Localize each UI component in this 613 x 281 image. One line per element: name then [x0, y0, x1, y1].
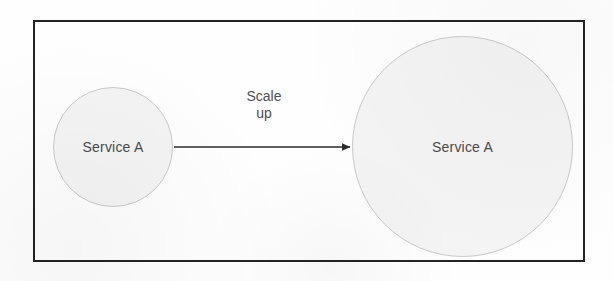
node-service-a-small-label: Service A: [83, 139, 144, 155]
node-service-a-large[interactable]: Service A: [352, 36, 573, 257]
scale-up-label-line-1: Scale: [216, 88, 312, 105]
node-service-a-small[interactable]: Service A: [53, 87, 173, 207]
scale-up-label-line-2: up: [216, 105, 312, 122]
scale-up-arrow-icon: [170, 134, 360, 162]
node-service-a-large-label: Service A: [432, 139, 493, 155]
scale-up-arrow-label: Scale up: [216, 88, 312, 122]
diagram-border: Service A Service A Scale up: [33, 20, 585, 262]
diagram-canvas: Service A Service A Scale up: [0, 0, 613, 281]
